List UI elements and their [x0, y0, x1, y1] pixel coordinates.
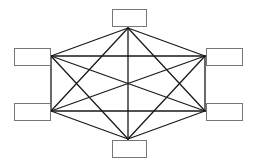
node-top: [113, 10, 147, 27]
node-left-lower: [15, 104, 51, 121]
node-box: [207, 104, 243, 121]
node-box: [15, 49, 51, 66]
complete-graph-diagram: [0, 0, 253, 167]
node-right-lower: [207, 104, 243, 121]
node-right-upper: [207, 49, 243, 66]
edge-top-right-upper: [128, 28, 205, 56]
edges-group: [51, 28, 205, 139]
node-bottom: [113, 141, 147, 158]
node-left-upper: [15, 49, 51, 66]
edge-right-upper-bottom: [128, 56, 205, 139]
node-box: [113, 141, 147, 158]
edge-right-lower-bottom: [128, 111, 205, 139]
node-box: [15, 104, 51, 121]
node-box: [113, 10, 147, 27]
edge-top-left-upper: [51, 28, 128, 56]
node-box: [207, 49, 243, 66]
edge-left-lower-bottom: [51, 111, 128, 139]
